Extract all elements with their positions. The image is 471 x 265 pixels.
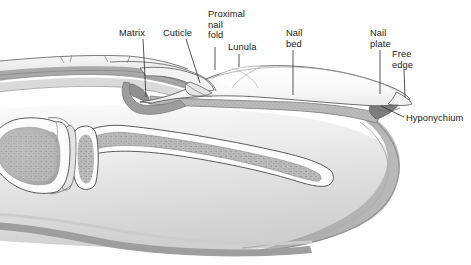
label-lunula: Lunula xyxy=(228,42,257,52)
label-cuticle: Cuticle xyxy=(163,28,192,38)
distal-phalanx-base-cancellous xyxy=(78,134,94,183)
label-nail-plate: Nail plate xyxy=(370,28,391,49)
label-matrix: Matrix xyxy=(119,28,145,38)
label-hyponychium: Hyponychium xyxy=(406,113,464,123)
nail-anatomy-figure: Matrix Cuticle Proximal nail fold Lunula… xyxy=(0,0,471,265)
label-proximal-nail-fold: Proximal nail fold xyxy=(208,9,248,40)
diagram-canvas: Matrix Cuticle Proximal nail fold Lunula… xyxy=(0,0,471,265)
label-nail-bed: Nail bed xyxy=(286,28,305,49)
leader-free-edge xyxy=(404,70,405,97)
label-free-edge: Free edge xyxy=(392,49,414,70)
